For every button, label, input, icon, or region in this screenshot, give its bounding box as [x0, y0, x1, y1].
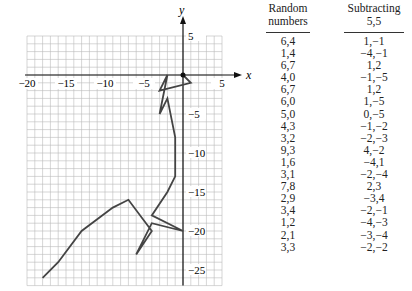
table-cell: 3,2: [262, 132, 314, 144]
table-cell: 6,4: [262, 35, 314, 47]
table-cell: 6,0: [262, 95, 314, 107]
table-cell: −4,1: [340, 156, 408, 168]
table-cell: 2,1: [262, 229, 314, 241]
table-cell: 1,−5: [340, 95, 408, 107]
table-cell: −4,−1: [340, 47, 408, 59]
table-cell: 7,8: [262, 180, 314, 192]
origin-dot: [181, 73, 186, 78]
y-tick-label: −5: [188, 108, 200, 120]
table-cell: 4,3: [262, 120, 314, 132]
random-numbers-rows: 6,41,46,74,06,76,05,04,33,29,31,63,17,82…: [262, 33, 314, 253]
table-cell: 1,−1: [340, 35, 408, 47]
x-axis-label: x: [245, 68, 252, 82]
header-line: numbers: [266, 15, 310, 28]
x-tick-label: 5: [219, 77, 225, 89]
table-cell: −2,−3: [340, 132, 408, 144]
table-cell: 2,3: [340, 180, 408, 192]
table-cell: −2,−4: [340, 168, 408, 180]
table-cell: 3,4: [262, 204, 314, 216]
table-cell: 9,3: [262, 144, 314, 156]
x-tick-label: −15: [57, 77, 75, 89]
subtracting-header: Subtracting 5,5: [344, 2, 404, 33]
x-axis-arrow-icon: [234, 72, 242, 78]
y-tick-label: −10: [188, 147, 206, 159]
random-walk-graph: xy−20−15−10−555−5−10−15−20−25: [0, 0, 262, 291]
x-tick-label: −5: [138, 77, 150, 89]
table-cell: 4,−2: [340, 144, 408, 156]
table-cell: 1,2: [262, 216, 314, 228]
y-tick-label: −15: [188, 186, 206, 198]
y-tick-label: −25: [188, 264, 206, 276]
table-cell: 2,9: [262, 192, 314, 204]
table-cell: −3,4: [340, 192, 408, 204]
x-tick-label: −10: [96, 77, 114, 89]
y-tick-label: −20: [188, 225, 206, 237]
table-cell: 5,0: [262, 108, 314, 120]
table-cell: 6,7: [262, 59, 314, 71]
table-cell: 3,3: [262, 241, 314, 253]
table-cell: 3,1: [262, 168, 314, 180]
table-cell: 4,0: [262, 71, 314, 83]
table-cell: −2,−2: [340, 241, 408, 253]
y-axis-label: y: [178, 3, 185, 17]
table-cell: 1,2: [340, 59, 408, 71]
grid: [27, 36, 222, 286]
subtracting-rows: 1,−1−4,−11,2−1,−51,21,−50,−5−1,−2−2,−34,…: [340, 33, 408, 253]
subtracting-column: Subtracting 5,5 1,−1−4,−11,2−1,−51,21,−5…: [340, 2, 408, 253]
table-cell: −2,−1: [340, 204, 408, 216]
header-line: Random: [266, 2, 310, 15]
table-cell: 1,4: [262, 47, 314, 59]
random-numbers-header: Random numbers: [266, 2, 310, 33]
y-axis-arrow-icon: [180, 16, 186, 24]
table-cell: 1,6: [262, 156, 314, 168]
table-cell: 0,−5: [340, 108, 408, 120]
table-cell: −3,−4: [340, 229, 408, 241]
y-tick-label: 5: [188, 30, 194, 42]
random-numbers-column: Random numbers 6,41,46,74,06,76,05,04,33…: [262, 2, 314, 253]
table-cell: −1,−2: [340, 120, 408, 132]
table-cell: 1,2: [340, 83, 408, 95]
header-line: 5,5: [344, 15, 404, 28]
x-tick-label: −20: [18, 77, 36, 89]
table-cell: −4,−3: [340, 216, 408, 228]
header-line: Subtracting: [344, 2, 404, 15]
table-cell: 6,7: [262, 83, 314, 95]
table-cell: −1,−5: [340, 71, 408, 83]
